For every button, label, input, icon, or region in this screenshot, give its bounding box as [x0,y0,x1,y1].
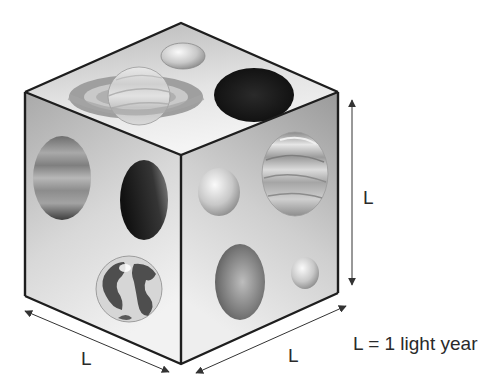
top-face-planets [69,43,294,125]
caption-light-year: L = 1 light year [353,333,478,354]
tiny-planet-icon [291,257,319,289]
front-left-dimension-label: L [81,348,92,369]
banded-gas-giant-icon [262,132,328,216]
front-right-dimension-label: L [288,345,299,366]
vertical-dimension-label: L [363,187,374,208]
cube-diagram: L L L L = 1 light year [0,0,504,390]
small-moon-icon [161,43,205,69]
earth-icon [96,256,162,322]
jupiter-icon [33,136,91,220]
dark-crescent-planet-icon [120,160,168,240]
small-pale-planet-icon [198,168,240,216]
red-planet-icon [215,244,265,320]
